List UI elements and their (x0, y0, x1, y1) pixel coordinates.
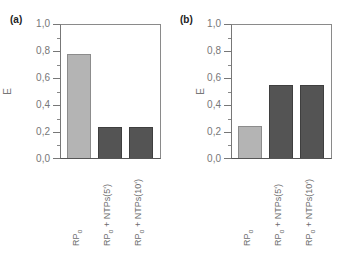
panel-label: (b) (180, 14, 193, 25)
y-tick-label: 0,8 (197, 45, 221, 56)
y-tick-label: 0,6 (26, 72, 50, 83)
major-tick (224, 51, 231, 52)
major-tick (224, 78, 231, 79)
y-tick-label: 0,6 (197, 72, 221, 83)
y-tick-label: 1,0 (26, 18, 50, 29)
y-tick-label: 0,4 (26, 99, 50, 110)
bar-rpo-ntps-5 (269, 85, 293, 158)
y-tick-label: 0,8 (26, 45, 50, 56)
x-tick-label: RPo + NTPs(5') (102, 184, 114, 246)
plot-area (60, 24, 161, 159)
major-tick (53, 105, 60, 106)
bar-rpo-ntps-5 (98, 127, 122, 158)
bar-rpo (238, 126, 262, 158)
x-tick-label: RPo (71, 230, 83, 246)
x-tick-label: RPo (242, 230, 254, 246)
y-tick-label: 1,0 (197, 18, 221, 29)
bar-rpo-ntps-10 (300, 85, 324, 158)
major-tick (53, 132, 60, 133)
plot-area (231, 24, 332, 159)
y-axis-label: E (2, 88, 13, 95)
major-tick (53, 78, 60, 79)
chart-panel-a: (a) E 1,0 0,8 0,6 0,4 0,2 0,0 RPo RPo + … (0, 0, 173, 258)
major-tick (224, 105, 231, 106)
y-tick-label: 0,0 (26, 153, 50, 164)
y-tick-label: 0,2 (26, 126, 50, 137)
x-tick-label: RPo + NTPs(5') (273, 184, 285, 246)
major-tick (53, 24, 60, 25)
x-tick-label: RPo + NTPs(10') (133, 179, 145, 246)
major-tick (224, 158, 231, 159)
y-tick-label: 0,2 (197, 126, 221, 137)
major-tick (224, 24, 231, 25)
panel-label: (a) (10, 14, 22, 25)
y-tick-label: 0,0 (197, 153, 221, 164)
major-tick (53, 158, 60, 159)
x-tick-label: RPo + NTPs(10') (304, 179, 316, 246)
major-tick (224, 132, 231, 133)
bar-rpo-ntps-10 (129, 127, 153, 158)
y-tick-label: 0,4 (197, 99, 221, 110)
chart-panel-b: (b) E 1,0 0,8 0,6 0,4 0,2 0,0 RPo RPo + … (171, 0, 344, 258)
y-axis-label: E (195, 88, 206, 95)
major-tick (53, 51, 60, 52)
bar-rpo (67, 54, 91, 158)
